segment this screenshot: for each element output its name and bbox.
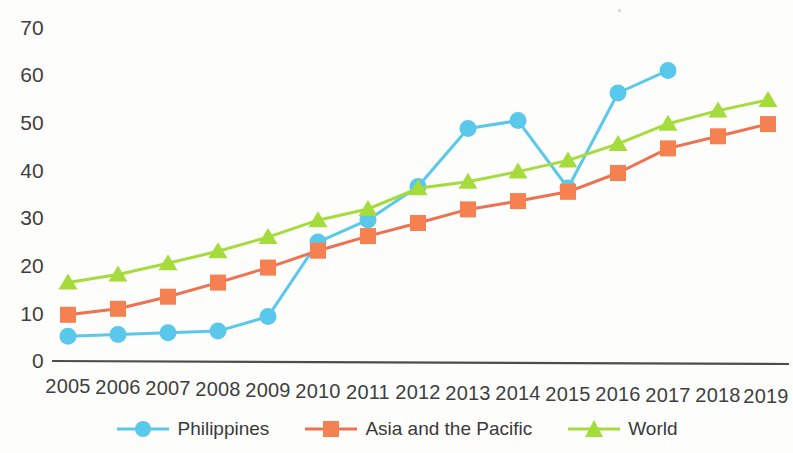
legend-item-asia-and-the-pacific[interactable]: Asia and the Pacific [303,418,532,440]
chart-legend: Philippines Asia and the Pacific World [0,418,793,440]
data-point-marker [460,201,476,217]
data-point-marker [210,275,226,291]
data-point-marker [60,328,77,345]
data-point-marker [160,324,177,341]
data-point-marker [110,326,127,343]
scan-speck [618,9,621,12]
legend-label-philippines: Philippines [177,418,269,440]
legend-item-philippines[interactable]: Philippines [115,418,269,440]
data-point-marker [510,112,527,129]
data-point-marker [60,307,76,323]
data-point-marker [160,289,176,305]
data-point-marker [610,85,627,102]
square-marker-icon [303,418,359,440]
data-point-marker [759,91,778,107]
legend-label-world: World [628,418,677,440]
x-axis-tick-2019: 2019 [737,385,793,408]
data-point-marker [660,62,677,79]
data-point-marker [360,228,376,244]
circle-marker-icon [115,418,171,440]
data-point-marker [210,323,227,340]
data-point-marker [760,116,776,132]
data-point-marker [110,301,126,317]
data-point-marker [609,135,628,151]
data-point-marker [710,128,726,144]
data-point-marker [560,184,576,200]
data-point-marker [660,140,676,156]
data-point-marker [260,308,277,325]
legend-item-world[interactable]: World [566,418,677,440]
x-axis-line [52,361,789,364]
data-point-marker [610,165,626,181]
data-point-marker [310,243,326,259]
legend-label-asia-and-the-pacific: Asia and the Pacific [365,418,532,440]
data-point-marker [510,193,526,209]
triangle-marker-icon [566,418,622,440]
data-point-marker [260,260,276,276]
data-point-marker [359,200,378,216]
data-point-marker [460,120,477,137]
data-point-marker [410,215,426,231]
line-chart: 70 60 50 40 30 20 10 0 2005 2006 2007 20… [0,0,793,453]
